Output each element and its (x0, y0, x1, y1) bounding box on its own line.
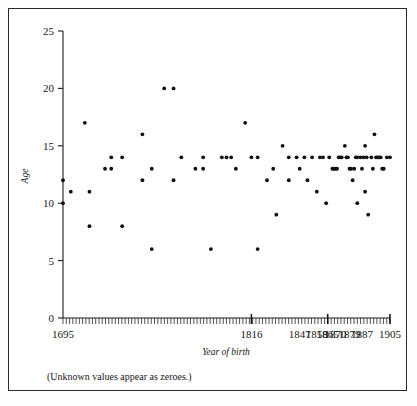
data-point (69, 190, 73, 194)
data-point (310, 155, 314, 159)
data-point (88, 224, 92, 228)
data-point (369, 155, 373, 159)
y-tick-label: 20 (43, 82, 55, 94)
data-point (120, 224, 124, 228)
data-point (234, 167, 238, 171)
data-point (220, 155, 224, 159)
data-point (324, 201, 328, 205)
data-point (271, 167, 275, 171)
data-point (109, 167, 113, 171)
data-point (355, 201, 359, 205)
data-point (265, 178, 269, 182)
data-point (379, 155, 383, 159)
data-point (281, 144, 285, 148)
data-point (150, 247, 154, 251)
data-point (172, 178, 176, 182)
data-point (306, 178, 310, 182)
data-point (382, 167, 386, 171)
data-point (250, 155, 254, 159)
y-tick-label: 0 (49, 312, 55, 324)
data-point (298, 167, 302, 171)
data-point (109, 155, 113, 159)
data-point (340, 155, 344, 159)
x-tick-label: 1816 (240, 328, 263, 340)
data-point (346, 155, 350, 159)
y-tick-label: 25 (43, 25, 55, 37)
data-point (365, 155, 369, 159)
data-point (373, 132, 377, 136)
data-point (162, 87, 166, 91)
data-point (343, 144, 347, 148)
data-point (120, 155, 124, 159)
scatter-plot: 0510152025169518161847185818651870187918… (0, 0, 417, 406)
data-point (351, 178, 355, 182)
data-point (83, 121, 87, 125)
data-point (287, 155, 291, 159)
data-point (193, 167, 197, 171)
data-point (141, 132, 145, 136)
data-point (61, 178, 65, 182)
data-point (302, 155, 306, 159)
data-point (256, 247, 260, 251)
data-point (335, 167, 339, 171)
data-point (274, 213, 278, 217)
x-tick-label: 1905 (379, 328, 402, 340)
data-point (103, 167, 107, 171)
figure-container: 0510152025169518161847185818651870187918… (0, 0, 417, 406)
figure-caption: (Unknown values appear as zeroes.) (47, 371, 192, 383)
data-point (388, 155, 392, 159)
data-point (229, 155, 233, 159)
data-points-group (61, 87, 392, 252)
data-point (315, 190, 319, 194)
data-point (179, 155, 183, 159)
data-point (321, 155, 325, 159)
y-tick-label: 10 (43, 197, 55, 209)
data-point (209, 247, 213, 251)
data-point (287, 178, 291, 182)
axes-group: 0510152025169518161847185818651870187918… (43, 25, 402, 340)
data-point (201, 167, 205, 171)
data-point (366, 213, 370, 217)
data-point (201, 155, 205, 159)
data-point (225, 155, 229, 159)
data-point (61, 201, 65, 205)
x-axis-title: Year of birth (202, 347, 250, 357)
data-point (295, 155, 299, 159)
x-tick-label: 1887 (351, 328, 374, 340)
x-tick-label: 1695 (52, 328, 75, 340)
data-point (150, 167, 154, 171)
y-tick-label: 15 (43, 140, 55, 152)
data-point (360, 167, 364, 171)
data-point (141, 178, 145, 182)
data-point (243, 121, 247, 125)
data-point (256, 155, 260, 159)
data-point (88, 190, 92, 194)
data-point (363, 144, 367, 148)
data-point (327, 155, 331, 159)
data-point (172, 87, 176, 91)
data-point (363, 190, 367, 194)
data-point (371, 167, 375, 171)
y-tick-label: 5 (49, 255, 55, 267)
y-axis-title: Age (20, 169, 30, 185)
data-point (352, 167, 356, 171)
